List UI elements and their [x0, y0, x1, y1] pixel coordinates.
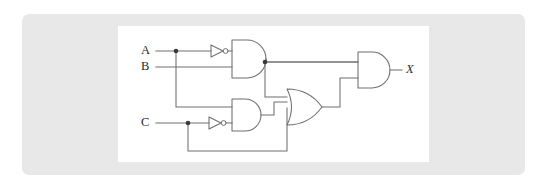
wire-or-output [322, 78, 358, 107]
logic-circuit-diagram [0, 0, 547, 189]
and-gate-1-body [232, 40, 266, 78]
not-gate-2-triangle [209, 117, 221, 129]
not-gate-1-triangle [211, 45, 223, 57]
input-label-a: A [141, 44, 150, 57]
input-label-b: B [141, 60, 149, 73]
input-label-c: C [141, 116, 149, 129]
wire-and1-branch-to-or [265, 62, 287, 97]
output-label-x: X [406, 63, 414, 76]
junction-dot-c [186, 121, 191, 126]
junction-dot-a [174, 49, 179, 54]
wire-and2-output [261, 102, 287, 115]
junction-dot-and1-output [263, 60, 268, 65]
wire-a-branch-down [176, 51, 232, 107]
and-gate-2-body [232, 99, 261, 131]
not-gate-2-bubble [221, 121, 226, 126]
wire-c-branch-feedback [188, 108, 287, 151]
and-gate-3-body [358, 52, 390, 88]
or-gate-body [287, 89, 322, 125]
not-gate-1-bubble [223, 49, 228, 54]
figure-root: A B C X [0, 0, 547, 189]
